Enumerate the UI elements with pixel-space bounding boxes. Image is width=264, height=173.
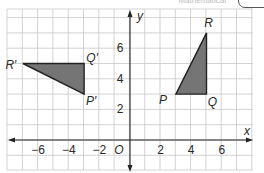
- x-tick-label: −6: [31, 143, 45, 157]
- y-axis-arrow-down-icon: [128, 165, 133, 172]
- vertex-label: R′: [5, 58, 17, 72]
- y-axis-label: y: [136, 9, 144, 23]
- x-axis-arrow-left-icon: [8, 138, 15, 143]
- vertex-label: Q′: [86, 51, 98, 65]
- x-tick-label: −4: [62, 143, 76, 157]
- y-tick-label: 4: [117, 72, 124, 86]
- coordinate-plane: −6−4−2246246OxyPQRP′Q′R′: [0, 0, 264, 173]
- origin-label: O: [114, 143, 123, 157]
- vertex-label: Q: [208, 95, 217, 109]
- x-tick-label: 2: [157, 143, 164, 157]
- y-tick-label: 2: [117, 102, 124, 116]
- x-tick-label: 4: [188, 143, 195, 157]
- y-axis-arrow-up-icon: [128, 10, 133, 17]
- labels: −6−4−2246246OxyPQRP′Q′R′: [5, 9, 251, 157]
- vertex-label: R: [204, 16, 213, 30]
- x-tick-label: 6: [218, 143, 225, 157]
- vertex-label: P′: [86, 94, 97, 108]
- x-axis-label: x: [243, 124, 251, 138]
- x-tick-label: −2: [93, 143, 107, 157]
- y-tick-label: 6: [117, 41, 124, 55]
- vertex-label: P: [159, 93, 167, 107]
